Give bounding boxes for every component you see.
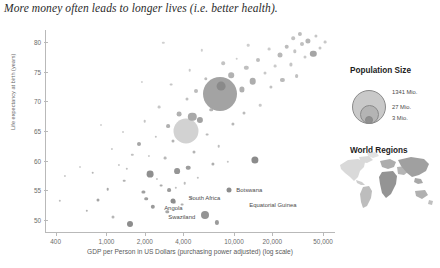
data-point-bubble	[201, 211, 209, 219]
data-point-bubble	[148, 155, 150, 157]
data-point-bubble	[123, 180, 126, 183]
data-point-bubble	[111, 148, 113, 150]
x-tick-label: 50,000	[313, 238, 333, 245]
map-region-africa	[379, 171, 397, 198]
population-legend-size-label: 1341 Mio.	[392, 89, 417, 95]
data-point-bubble	[251, 156, 258, 163]
data-point-bubble	[289, 63, 292, 66]
y-tick-label: 70	[34, 98, 41, 105]
x-tick	[272, 232, 273, 236]
data-point-bubble	[127, 221, 133, 227]
data-point-bubble	[303, 56, 306, 59]
data-point-bubble	[217, 145, 220, 148]
data-point-bubble	[298, 32, 302, 36]
x-tick	[56, 232, 57, 236]
data-point-bubble	[174, 168, 180, 174]
annotation-label: Swaziland	[168, 214, 195, 220]
x-tick-label: 1,000	[98, 238, 114, 245]
data-point-bubble	[175, 187, 177, 189]
y-tick	[44, 190, 48, 191]
data-point-bubble	[201, 49, 203, 51]
data-point-bubble	[85, 209, 87, 211]
data-point-bubble	[221, 61, 225, 65]
data-point-bubble	[305, 38, 310, 43]
data-point-bubble	[176, 111, 181, 116]
data-point-bubble	[173, 119, 198, 144]
data-point-bubble	[183, 182, 186, 185]
data-point-bubble	[100, 124, 102, 126]
data-point-bubble	[197, 117, 203, 123]
data-point-bubble	[118, 164, 120, 166]
data-point-bubble	[215, 220, 219, 224]
data-point-bubble	[162, 42, 164, 44]
population-legend-size-label: 3 Mio.	[392, 115, 408, 121]
data-point-bubble	[164, 157, 167, 160]
data-point-bubble	[188, 69, 191, 72]
data-point-bubble	[278, 52, 283, 57]
x-tick-label: 10,000	[224, 238, 244, 245]
y-tick	[44, 42, 48, 43]
data-point-bubble	[204, 77, 207, 80]
y-tick-label: 55	[34, 187, 41, 194]
data-point-bubble	[58, 200, 60, 202]
data-point-bubble	[167, 189, 171, 193]
chart-title: More money often leads to longer lives (…	[4, 2, 278, 14]
data-point-bubble	[160, 184, 163, 187]
data-point-bubble	[269, 85, 272, 88]
data-point-bubble	[112, 215, 115, 218]
data-point-bubble	[280, 78, 284, 82]
data-point-bubble	[239, 87, 244, 92]
x-axis-title: GDP per Person in US Dollars (purchasing…	[45, 248, 335, 255]
data-point-bubble	[141, 81, 143, 83]
y-tick	[44, 161, 48, 162]
data-point-bubble	[166, 124, 170, 128]
data-point-bubble	[171, 139, 174, 142]
data-point-bubble	[247, 44, 250, 47]
data-point-bubble	[295, 74, 299, 78]
data-point-bubble	[314, 34, 317, 37]
x-tick	[323, 232, 324, 236]
data-point-bubble	[318, 46, 321, 49]
data-point-bubble	[155, 136, 157, 138]
data-point-bubble	[188, 113, 196, 121]
y-axis-title: Life expectancy at birth (years)	[10, 54, 16, 130]
data-point-bubble	[291, 37, 295, 41]
data-point-bubble	[259, 104, 262, 107]
data-point-bubble	[243, 112, 246, 115]
map-region-north-america	[340, 156, 373, 181]
x-tick-label: 400	[50, 238, 61, 245]
map-region-south-america	[360, 186, 372, 208]
plot-area: 50556065707580 4001,0002,0004,00010,0002…	[45, 30, 335, 232]
data-point-bubble	[147, 170, 154, 177]
data-point-bubble	[197, 177, 199, 179]
x-tick-label: 4,000	[175, 238, 191, 245]
data-point-bubble	[211, 163, 214, 166]
y-tick-label: 50	[34, 217, 41, 224]
annotation-label: Equatorial Guinea	[249, 202, 296, 208]
data-point-bubble	[158, 106, 161, 109]
data-point-bubble	[263, 71, 266, 74]
y-tick-label: 65	[34, 128, 41, 135]
data-point-bubble	[169, 83, 172, 86]
data-point-bubble	[293, 50, 296, 53]
data-point-bubble	[235, 57, 238, 60]
data-point-bubble	[274, 65, 277, 68]
x-tick	[145, 232, 146, 236]
data-point-bubble	[131, 154, 133, 156]
data-point-bubble	[310, 51, 316, 57]
data-point-bubble	[106, 188, 109, 191]
data-point-bubble	[249, 78, 256, 85]
data-point-bubble	[144, 197, 148, 201]
data-point-bubble	[144, 120, 147, 123]
data-point-bubble	[268, 48, 271, 51]
data-point-bubble	[300, 42, 304, 46]
x-axis-line	[45, 232, 335, 233]
data-point-bubble	[206, 133, 209, 136]
data-point-bubble	[126, 168, 128, 170]
data-point-bubble	[137, 142, 141, 146]
data-point-bubble	[324, 40, 327, 43]
population-legend-size-label: 27 Mio.	[392, 104, 411, 110]
data-point-bubble	[122, 131, 124, 133]
y-tick	[44, 131, 48, 132]
map-region-europe	[380, 159, 396, 169]
